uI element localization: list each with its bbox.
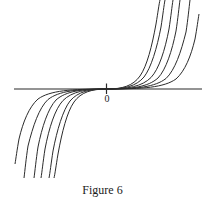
origin-label: 0 bbox=[100, 93, 114, 104]
figure-caption: Figure 6 bbox=[0, 183, 205, 198]
curve-right-6 bbox=[107, 14, 199, 89]
curve-group-right bbox=[107, 0, 199, 89]
curve-left-2 bbox=[49, 89, 107, 178]
curve-left-6 bbox=[15, 89, 107, 164]
curve-right-5 bbox=[107, 0, 190, 89]
curve-right-2 bbox=[107, 0, 165, 89]
figure-container: 0 Figure 6 bbox=[0, 0, 205, 205]
curve-left-5 bbox=[24, 89, 107, 178]
curve-group-left bbox=[15, 89, 107, 178]
